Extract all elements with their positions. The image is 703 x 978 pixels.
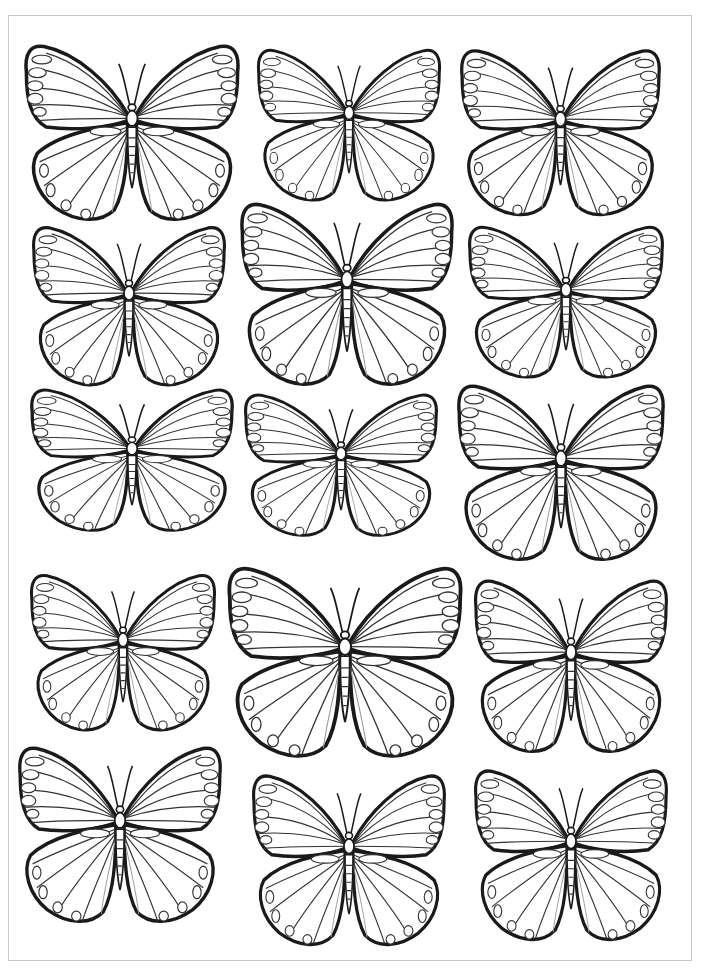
butterfly-12 <box>472 575 670 757</box>
butterfly-8 <box>242 390 440 540</box>
butterfly-1 <box>22 40 242 225</box>
abdomen <box>128 456 136 505</box>
butterfly-drawing <box>22 40 242 225</box>
abdomen <box>556 127 564 185</box>
thorax <box>115 813 125 828</box>
abdomen <box>343 288 352 351</box>
left-antenna <box>554 243 564 279</box>
right-antenna <box>131 244 141 282</box>
butterfly-9 <box>455 380 667 565</box>
butterfly-drawing <box>458 45 663 220</box>
head <box>568 638 575 644</box>
butterfly-drawing <box>466 222 666 382</box>
head <box>343 265 351 272</box>
left-antenna <box>119 64 130 105</box>
thorax <box>555 112 565 126</box>
right-antenna <box>563 68 573 107</box>
abdomen <box>116 829 124 890</box>
abdomen <box>128 127 137 188</box>
head <box>557 444 564 451</box>
butterfly-drawing <box>28 570 218 735</box>
right-antenna <box>573 599 583 640</box>
abdomen <box>345 120 353 173</box>
butterfly-5 <box>238 198 456 390</box>
butterfly-10 <box>28 570 218 735</box>
head <box>563 278 570 284</box>
butterfly-4 <box>30 222 228 390</box>
thorax <box>124 286 134 300</box>
left-antenna <box>108 766 118 807</box>
left-antenna <box>337 793 347 833</box>
butterfly-drawing <box>28 385 236 535</box>
left-antenna <box>548 404 559 445</box>
butterfly-drawing <box>242 390 440 540</box>
head <box>116 806 123 813</box>
right-antenna <box>568 243 578 279</box>
left-antenna <box>329 409 339 443</box>
right-antenna <box>563 404 574 445</box>
head <box>128 104 136 111</box>
thorax <box>344 106 353 119</box>
right-antenna <box>573 788 583 828</box>
butterfly-drawing <box>472 575 670 757</box>
head <box>346 101 353 107</box>
abdomen <box>557 467 565 528</box>
right-antenna <box>351 66 360 102</box>
thorax <box>556 451 567 466</box>
butterfly-drawing <box>30 222 228 390</box>
butterfly-drawing <box>472 765 670 945</box>
abdomen <box>125 301 133 356</box>
right-antenna <box>134 404 144 438</box>
abdomen <box>340 656 350 722</box>
butterfly-drawing <box>255 45 443 205</box>
thorax <box>336 447 346 459</box>
right-antenna <box>349 223 360 266</box>
left-antenna <box>331 588 343 633</box>
butterfly-drawing <box>16 742 224 927</box>
thorax <box>339 638 351 654</box>
head <box>120 627 127 633</box>
thorax <box>118 633 128 647</box>
abdomen <box>345 855 353 914</box>
abdomen <box>567 661 575 721</box>
butterfly-7 <box>28 385 236 535</box>
butterfly-6 <box>466 222 666 382</box>
abdomen <box>562 297 570 350</box>
right-antenna <box>351 793 361 833</box>
right-antenna <box>125 591 134 628</box>
head <box>338 442 345 447</box>
left-antenna <box>548 68 558 107</box>
left-antenna <box>334 223 345 266</box>
thorax <box>566 834 576 849</box>
left-antenna <box>338 66 347 102</box>
thorax <box>344 839 354 854</box>
right-antenna <box>122 766 132 807</box>
butterfly-14 <box>250 770 448 950</box>
thorax <box>342 271 353 287</box>
thorax <box>127 442 137 454</box>
abdomen <box>337 461 345 510</box>
butterfly-2 <box>255 45 443 205</box>
head <box>126 280 133 286</box>
left-antenna <box>112 591 122 628</box>
head <box>568 827 575 833</box>
left-antenna <box>559 788 569 828</box>
butterfly-drawing <box>455 380 667 565</box>
footer-caption: · · · · · · · · · · · · · · · · · · · · <box>120 968 580 974</box>
butterfly-drawing <box>250 770 448 950</box>
butterfly-drawing <box>225 562 465 762</box>
left-antenna <box>120 404 130 438</box>
head <box>557 106 564 112</box>
thorax <box>561 283 571 296</box>
butterfly-11 <box>225 562 465 762</box>
thorax <box>566 645 576 660</box>
left-antenna <box>559 599 569 640</box>
head <box>128 437 135 442</box>
thorax <box>127 111 138 126</box>
abdomen <box>567 850 575 909</box>
butterfly-drawing <box>238 198 456 390</box>
butterfly-3 <box>458 45 663 220</box>
right-antenna <box>343 409 353 443</box>
right-antenna <box>134 64 145 105</box>
right-antenna <box>347 588 359 633</box>
